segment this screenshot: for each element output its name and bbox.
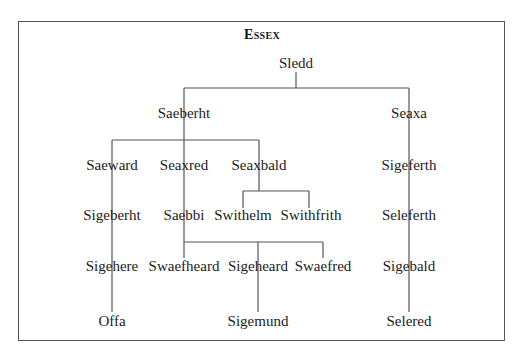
node-swithelm: Swithelm <box>214 208 272 223</box>
tree-connector-lines <box>0 0 524 359</box>
diagram-title: Essex <box>244 27 280 43</box>
node-sigeferth: Sigeferth <box>382 158 437 173</box>
node-swithfrith: Swithfrith <box>281 208 342 223</box>
node-seaxred: Seaxred <box>160 158 208 173</box>
node-saebbi: Saebbi <box>164 208 205 223</box>
node-seaxbald: Seaxbald <box>232 158 287 173</box>
node-sigehere: Sigehere <box>86 259 138 274</box>
node-sigeberht: Sigeberht <box>83 208 141 223</box>
node-sledd: Sledd <box>279 56 313 71</box>
node-sigemund: Sigemund <box>228 314 289 329</box>
node-selered: Selered <box>387 314 432 329</box>
node-swaefheard: Swaefheard <box>149 259 220 274</box>
node-swaefred: Swaefred <box>295 259 352 274</box>
node-saeward: Saeward <box>86 158 138 173</box>
node-saeberht: Saeberht <box>158 106 210 121</box>
node-offa: Offa <box>98 314 125 329</box>
node-sigeheard: Sigeheard <box>228 259 288 274</box>
node-seleferth: Seleferth <box>382 208 436 223</box>
node-sigebald: Sigebald <box>383 259 436 274</box>
node-seaxa: Seaxa <box>391 106 427 121</box>
